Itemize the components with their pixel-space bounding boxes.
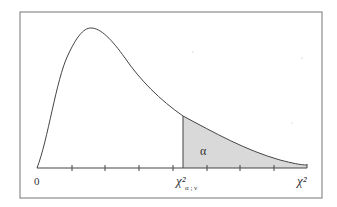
origin-label: 0 [34, 175, 40, 187]
scan-speckle [301, 57, 302, 58]
scan-speckle [291, 122, 292, 123]
x-axis-end-label: χ² [295, 173, 308, 188]
scan-speckle [192, 51, 193, 52]
critical-value-subscript: α ; ν [185, 184, 197, 192]
density-curve [37, 28, 307, 168]
alpha-label: α [200, 144, 207, 158]
alpha-region [183, 116, 307, 168]
chi-square-chart: 0 χ² α ; ν χ² α [0, 0, 337, 207]
chart-frame [20, 12, 322, 198]
